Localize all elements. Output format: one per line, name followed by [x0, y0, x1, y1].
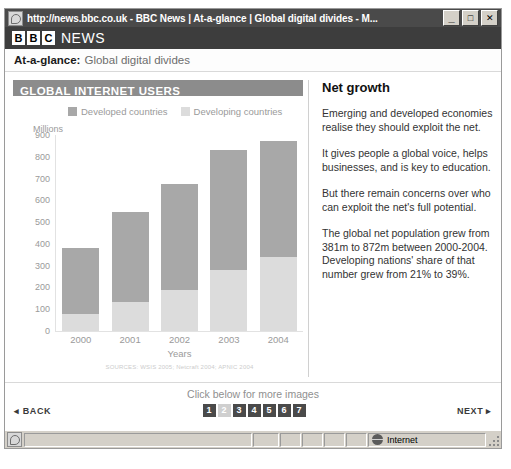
bar-segment-developing	[161, 290, 198, 331]
bar-segment-developing	[260, 257, 297, 331]
status-pane-5	[346, 433, 367, 447]
chart-title: GLOBAL INTERNET USERS	[13, 80, 303, 96]
x-axis-label: Years	[56, 348, 303, 359]
stacked-bar	[260, 141, 297, 331]
x-axis-ticks: 20002001200220032004	[56, 334, 303, 345]
stacked-bar	[210, 150, 247, 331]
side-paragraph-4: The global net population grew from 381m…	[322, 227, 493, 281]
legend-swatch-developed	[68, 107, 77, 116]
next-button[interactable]: NEXT ▸	[457, 406, 492, 416]
chart-column: GLOBAL INTERNET USERS Developed countrie…	[5, 72, 308, 383]
status-message-pane	[24, 433, 252, 447]
status-pane-1	[253, 433, 279, 447]
pager-page-2[interactable]: 2	[218, 404, 231, 417]
y-axis-tick: 300	[35, 261, 50, 271]
y-axis-tick: 500	[35, 217, 50, 227]
page-title-lead: At-a-glance:	[14, 54, 80, 66]
bar-slot	[56, 135, 105, 331]
bbc-logo: B B C	[12, 31, 55, 45]
minimize-icon: _	[444, 11, 459, 25]
masthead-news-label: NEWS	[61, 30, 105, 46]
browser-window-screenshot: http://news.bbc.co.uk - BBC News | At-a-…	[0, 0, 511, 469]
legend-swatch-developing	[181, 107, 190, 116]
status-bar: Internet	[5, 431, 501, 448]
y-axis-tick: 400	[35, 239, 50, 249]
resize-grip[interactable]	[487, 433, 500, 447]
footer-nav-row: ◂ BACK 1234567 NEXT ▸	[5, 404, 501, 417]
window-titlebar[interactable]: http://news.bbc.co.uk - BBC News | At-a-…	[5, 9, 501, 27]
x-axis-tick: 2003	[204, 334, 253, 345]
bar-segment-developed	[112, 212, 149, 302]
y-axis-tick: 100	[35, 304, 50, 314]
y-axis-tick: 800	[35, 152, 50, 162]
bar-slot	[105, 135, 154, 331]
bar-segment-developing	[112, 302, 149, 331]
bar-segment-developed	[210, 150, 247, 270]
x-axis-tick: 2004	[254, 334, 303, 345]
stacked-bar	[112, 212, 149, 331]
bar-segment-developed	[62, 248, 99, 314]
x-axis-tick: 2002	[155, 334, 204, 345]
back-button[interactable]: ◂ BACK	[14, 406, 51, 416]
legend-item-developing: Developing countries	[181, 106, 283, 117]
browser-window: http://news.bbc.co.uk - BBC News | At-a-…	[4, 8, 502, 449]
security-zone-label: Internet	[387, 435, 418, 445]
page-title: At-a-glance: Global digital divides	[5, 49, 501, 72]
content-columns: GLOBAL INTERNET USERS Developed countrie…	[5, 72, 501, 383]
bar-slot	[204, 135, 253, 331]
status-pane-3	[302, 433, 323, 447]
bar-segment-developing	[210, 270, 247, 331]
page-content: B B C NEWS At-a-glance: Global digital d…	[5, 27, 501, 431]
globe-icon	[372, 434, 383, 445]
bar-series-group	[56, 135, 303, 331]
footer-hint: Click below for more images	[5, 383, 501, 400]
bar-segment-developed	[161, 184, 198, 290]
bbc-logo-letter-c: C	[42, 31, 55, 45]
y-axis-tick: 900	[35, 130, 50, 140]
security-zone-pane[interactable]: Internet	[368, 433, 486, 447]
pager-page-1[interactable]: 1	[203, 404, 216, 417]
page-title-rest: Global digital divides	[84, 54, 189, 66]
bar-segment-developing	[62, 314, 99, 331]
pager-page-7[interactable]: 7	[293, 404, 306, 417]
stacked-bar	[161, 184, 198, 331]
bar-chart-plot: Millions 9008007006005004003002001000 20…	[13, 124, 305, 419]
maximize-button[interactable]: □	[462, 10, 479, 26]
side-text-column: Net growth Emerging and developed econom…	[309, 72, 501, 383]
y-axis-tick: 700	[35, 174, 50, 184]
close-icon: ✕	[482, 11, 497, 25]
y-axis-tick: 0	[45, 326, 50, 336]
y-axis-tick: 600	[35, 195, 50, 205]
bbc-logo-letter-b2: B	[27, 31, 40, 45]
side-title: Net growth	[322, 80, 493, 95]
y-axis-ticks: 9008007006005004003002001000	[13, 135, 55, 331]
close-button[interactable]: ✕	[481, 10, 498, 26]
status-pane-2	[280, 433, 301, 447]
bar-slot	[254, 135, 303, 331]
side-paragraph-2: It gives people a global voice, helps bu…	[322, 147, 493, 174]
chart-source-note: SOURCES: WSIS 2005; Netcraft 2004; APNIC…	[56, 364, 303, 370]
pager-page-5[interactable]: 5	[263, 404, 276, 417]
bar-slot	[155, 135, 204, 331]
pager-page-6[interactable]: 6	[278, 404, 291, 417]
chart-legend: Developed countries Developing countries	[68, 106, 308, 117]
bbc-news-masthead: B B C NEWS	[5, 27, 501, 49]
window-title: http://news.bbc.co.uk - BBC News | At-a-…	[27, 13, 443, 24]
maximize-icon: □	[463, 11, 478, 25]
side-paragraph-3: But there remain concerns over who can e…	[322, 187, 493, 214]
pager-page-3[interactable]: 3	[233, 404, 246, 417]
bar-segment-developed	[260, 141, 297, 257]
side-paragraph-1: Emerging and developed economies realise…	[322, 107, 493, 134]
legend-item-developed: Developed countries	[68, 106, 168, 117]
page-icon	[8, 11, 23, 26]
minimize-button[interactable]: _	[443, 10, 460, 26]
status-pane-4	[324, 433, 345, 447]
footer-navigation: Click below for more images ◂ BACK 12345…	[5, 382, 501, 431]
window-controls: _ □ ✕	[443, 10, 499, 26]
pager: 1234567	[51, 404, 457, 417]
x-axis-line	[55, 331, 303, 332]
x-axis-tick: 2001	[105, 334, 154, 345]
legend-label-developing: Developing countries	[194, 106, 283, 117]
pager-page-4[interactable]: 4	[248, 404, 261, 417]
x-axis-tick: 2000	[56, 334, 105, 345]
